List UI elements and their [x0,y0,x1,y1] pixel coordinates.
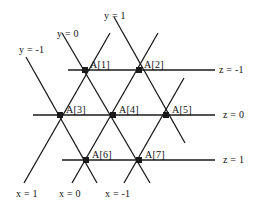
axis-label-x-1: x = 1 [16,188,38,199]
axis-label-y-1: y = 1 [104,10,126,21]
node-label-a1: A[1] [90,59,110,70]
node-label-a5: A[5] [172,104,192,115]
grid-line-y-minus-1 [26,57,97,183]
axis-label-x-minus-1: x = -1 [105,188,130,199]
grid-line-y-1 [114,17,185,143]
grid-line-x-minus-1 [124,78,184,183]
node-marker-a4 [110,112,116,118]
node-label-a6: A[6] [92,149,112,160]
lattice-diagram: A[1] A[2] A[3] A[4] A[5] A[6] A[7] z = -… [0,0,270,215]
node-label-a2: A[2] [144,59,164,70]
axis-label-z-minus-1: z = -1 [219,64,244,75]
node-marker-a5 [163,112,169,118]
axis-label-z-0: z = 0 [223,109,244,120]
node-label-a7: A[7] [145,149,165,160]
node-marker-a3 [57,112,63,118]
axis-label-z-1: z = 1 [223,154,244,165]
node-marker-a1 [82,67,88,73]
axis-label-y-0: y = 0 [57,28,79,39]
axis-label-y-minus-1: y = -1 [19,44,44,55]
node-marker-a7 [136,157,142,163]
node-marker-a2 [136,67,142,73]
node-marker-a6 [83,157,89,163]
node-label-a3: A[3] [66,104,86,115]
node-label-a4: A[4] [119,104,139,115]
axis-label-x-0: x = 0 [59,188,81,199]
